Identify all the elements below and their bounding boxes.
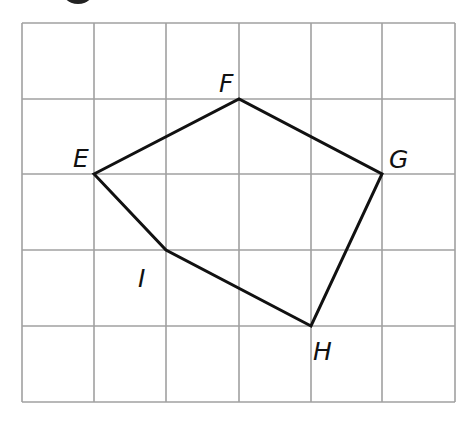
marker-circle <box>60 0 96 4</box>
square-grid <box>22 23 455 402</box>
vertex-label-e: E <box>73 144 89 173</box>
question-marker-circle <box>60 0 96 4</box>
vertex-label-h: H <box>313 337 332 366</box>
vertex-label-g: G <box>389 145 408 174</box>
vertex-label-f: F <box>219 69 234 98</box>
vertex-label-i: I <box>138 264 145 293</box>
vertex-labels: EFGHI <box>73 69 408 366</box>
diagram-canvas: EFGHI <box>0 0 470 432</box>
